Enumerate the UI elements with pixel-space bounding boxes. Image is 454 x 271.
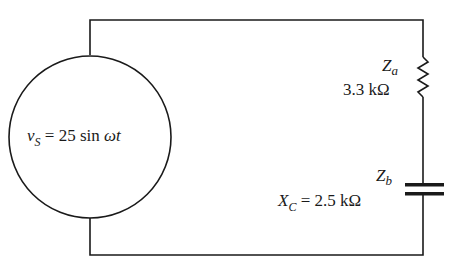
zb-sub: b [385,173,392,188]
circuit-diagram: vS = 25 sin ωt Za 3.3 kΩ Zb XC = 2.5 kΩ [0,0,454,271]
za-value: 3.3 kΩ [343,81,390,98]
resistor-za [418,57,428,97]
xc-sub: C [288,200,296,214]
source-var: v [27,126,35,145]
source-sub: S [35,135,41,149]
za-sub: a [391,63,398,78]
zb-value: = 2.5 kΩ [301,191,361,210]
source-expr: = 25 sin [45,126,104,145]
bottom-wire [90,194,423,255]
top-wire [90,20,423,57]
xc-letter: X [278,191,288,210]
zb-name: Zb [376,167,392,184]
source-omega-t: ωt [104,126,121,145]
za-name: Za [382,57,398,74]
capacitor-zb [405,183,444,196]
source-label: vS = 25 sin ωt [27,127,121,144]
zb-value-line: XC = 2.5 kΩ [278,192,361,209]
